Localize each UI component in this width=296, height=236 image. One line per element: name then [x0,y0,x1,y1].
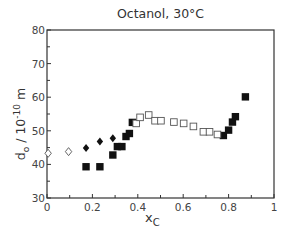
y-tick-label: 30 [32,192,45,204]
y-tick-label: 70 [32,58,45,70]
x-tick-label: 0.6 [175,201,192,213]
open-square-marker [180,120,187,127]
x-label-symbol: x [145,210,153,225]
open-square-marker [200,129,207,136]
filled-square-marker [82,163,89,170]
x-label-subscript: C [153,217,160,228]
open-square-marker [171,119,178,126]
y-label-unit: m [13,88,28,104]
x-axis-label: xC [145,210,160,228]
filled-square-marker [126,130,133,137]
filled-square-marker [109,151,116,158]
filled-square-marker [118,143,125,150]
y-axis-label: do / 10-10 m [12,64,31,184]
data-points [45,93,249,170]
y-label-exponent: -10 [12,104,22,119]
x-tick-label: 1 [271,201,278,213]
filled-square-marker [242,93,249,100]
filled-square-marker [232,113,239,120]
open-square-marker [145,112,152,119]
scatter-chart: 00.20.40.60.81304050607080 [0,0,296,236]
plot-frame [47,30,274,198]
filled-square-marker [225,126,232,133]
y-label-subscript: o [21,147,31,153]
chart-title: Octanol, 30°C [47,6,274,21]
y-tick-label: 60 [32,91,45,103]
open-square-marker [190,123,197,130]
open-square-marker [158,117,165,124]
filled-square-marker [96,163,103,170]
open-diamond-marker [65,148,71,156]
filled-diamond-marker [97,138,103,146]
y-label-text: / 10 [13,119,28,147]
y-tick-label: 40 [32,158,45,170]
open-square-marker [137,114,144,121]
filled-diamond-marker [83,144,89,152]
x-tick-label: 0.8 [220,201,237,213]
open-diamond-marker [45,149,51,157]
open-square-marker [206,129,213,136]
x-tick-label: 0.2 [84,201,101,213]
y-tick-label: 50 [32,125,45,137]
y-label-symbol: d [13,152,28,160]
filled-diamond-marker [110,134,116,142]
y-tick-label: 80 [32,24,45,36]
open-square-marker [214,131,221,138]
x-tick-label: 0.4 [129,201,146,213]
